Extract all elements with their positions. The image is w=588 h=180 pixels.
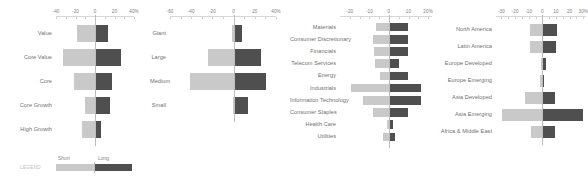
bar-long[interactable] <box>389 72 408 81</box>
bar-short[interactable] <box>373 35 389 44</box>
zero-line <box>234 15 235 122</box>
bar-short[interactable] <box>374 47 389 56</box>
bar-long[interactable] <box>389 84 421 93</box>
bar-long[interactable] <box>389 35 408 44</box>
bar-track <box>170 49 276 66</box>
chart-row: Small <box>150 93 290 117</box>
x-axis-tick-mark <box>576 17 577 19</box>
bar-long[interactable] <box>95 25 108 42</box>
bar-long[interactable] <box>234 73 266 90</box>
x-axis-tick-mark <box>265 17 266 19</box>
x-axis-tick-label: 20 <box>567 7 572 16</box>
x-axis-tick-labels: -60-40-2002040% <box>150 7 290 16</box>
chart-row: Large <box>150 45 290 69</box>
x-axis-tick-mark <box>418 17 419 19</box>
x-axis-tick-mark <box>181 17 182 19</box>
x-axis-tick-mark <box>563 17 564 19</box>
category-label: Large <box>150 54 166 61</box>
bar-long[interactable] <box>95 73 112 90</box>
bar-short[interactable] <box>531 126 543 138</box>
x-axis-tick-mark <box>170 17 171 19</box>
bar-short[interactable] <box>74 73 95 90</box>
x-axis-tick-mark <box>570 17 571 19</box>
chart-row: Africa & Middle East <box>440 123 587 140</box>
chart-row: Core Value <box>0 45 150 69</box>
chart-panel-size: -60-40-2002040%GiantLargeMediumSmall <box>150 0 290 180</box>
x-axis-tick-mark <box>515 17 516 19</box>
chart-row: Europe Developed <box>440 55 587 72</box>
bar-long[interactable] <box>389 96 421 105</box>
x-axis-tick-labels: -20-1001020% <box>290 7 440 16</box>
bar-short[interactable] <box>530 24 542 36</box>
x-axis-tick-mark <box>212 17 213 19</box>
legend-swatch-short <box>56 164 94 171</box>
bar-long[interactable] <box>389 108 409 117</box>
bar-long[interactable] <box>234 49 261 66</box>
bar-long[interactable] <box>542 41 556 53</box>
bar-short[interactable] <box>376 23 389 32</box>
zero-line <box>95 15 96 146</box>
x-axis-tick-mark <box>529 17 530 19</box>
chart-row: Europe Emerging <box>440 72 587 89</box>
x-axis-tick-mark <box>255 17 256 19</box>
x-axis-tick-label: -40 <box>188 7 195 16</box>
bar-long[interactable] <box>234 97 248 114</box>
x-axis-tick-label: -20 <box>346 7 353 16</box>
x-axis-tick-label: -10 <box>366 7 373 16</box>
bar-long[interactable] <box>542 24 557 36</box>
bar-long[interactable] <box>234 25 242 42</box>
category-label: Core Growth <box>0 102 52 109</box>
bar-long[interactable] <box>95 49 121 66</box>
bar-short[interactable] <box>351 84 389 93</box>
x-axis-tick-label: 10 <box>406 7 411 16</box>
category-label: Utilities <box>290 133 336 140</box>
chart-row: Industrials <box>290 82 440 94</box>
bar-long[interactable] <box>389 47 408 56</box>
chart-row: Medium <box>150 69 290 93</box>
x-axis-tick-mark <box>202 17 203 19</box>
bar-track <box>340 72 432 81</box>
category-label: Materials <box>290 24 336 31</box>
bar-short[interactable] <box>373 108 389 117</box>
bar-long[interactable] <box>542 92 555 104</box>
bar-track <box>170 97 276 114</box>
x-axis-tick-mark <box>379 17 380 19</box>
category-label: Europe Emerging <box>440 77 492 84</box>
bar-long[interactable] <box>389 23 409 32</box>
chart-row: Core Growth <box>0 93 150 117</box>
bar-track <box>340 84 432 93</box>
x-axis-tick-label: 20 <box>252 7 257 16</box>
chart-row: Value <box>0 21 150 45</box>
x-axis-tick-mark <box>76 17 77 19</box>
x-axis-tick-mark <box>85 17 86 19</box>
x-axis-tick-mark <box>115 17 116 19</box>
bar-track <box>340 133 432 142</box>
chart-row: North America <box>440 21 587 38</box>
bar-long[interactable] <box>542 126 554 138</box>
x-axis-tick-mark <box>583 17 584 19</box>
chart-row: Giant <box>150 21 290 45</box>
bar-short[interactable] <box>77 25 95 42</box>
category-label: North America <box>440 26 492 33</box>
bar-short[interactable] <box>530 41 542 53</box>
x-axis-ticks <box>440 17 587 20</box>
bar-track <box>340 23 432 32</box>
bar-short[interactable] <box>380 72 389 81</box>
bar-short[interactable] <box>85 97 95 114</box>
bar-track <box>496 24 586 36</box>
bar-short[interactable] <box>525 92 542 104</box>
bar-short[interactable] <box>63 49 95 66</box>
bar-long[interactable] <box>542 109 583 121</box>
chart-row: Consumer Staples <box>290 106 440 118</box>
bar-short[interactable] <box>208 49 233 66</box>
bar-track <box>496 109 586 121</box>
x-axis-tick-mark <box>276 17 277 19</box>
bar-short[interactable] <box>82 121 95 138</box>
bar-short[interactable] <box>375 59 389 68</box>
bar-short[interactable] <box>190 73 233 90</box>
bar-long[interactable] <box>389 59 399 68</box>
bar-short[interactable] <box>363 96 389 105</box>
bar-short[interactable] <box>502 109 542 121</box>
chart-row: Asia Developed <box>440 89 587 106</box>
bar-long[interactable] <box>95 97 110 114</box>
